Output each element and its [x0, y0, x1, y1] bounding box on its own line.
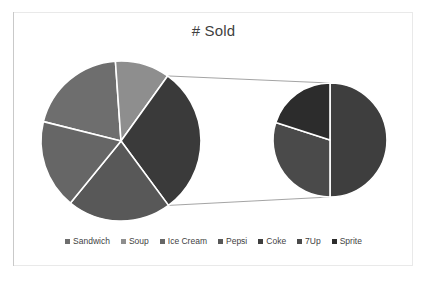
pie-connector-line [168, 197, 330, 205]
legend-item-label: Sandwich [73, 236, 110, 246]
legend-item-label: Soup [129, 236, 149, 246]
legend-item[interactable]: Ice Cream [160, 236, 207, 246]
secondary-pie [273, 83, 387, 197]
pie-of-pie-chart: # Sold SandwichSoupIce CreamPepsiCoke7Up… [0, 0, 427, 281]
legend-swatch-icon [218, 239, 223, 244]
legend-item[interactable]: 7Up [297, 236, 321, 246]
primary-pie [41, 61, 201, 221]
legend-item[interactable]: Sandwich [65, 236, 110, 246]
pie-connector-line [168, 76, 330, 83]
legend-swatch-icon [297, 239, 302, 244]
legend-swatch-icon [121, 239, 126, 244]
legend-item[interactable]: Coke [258, 236, 286, 246]
legend-item[interactable]: Sprite [332, 236, 362, 246]
chart-legend: SandwichSoupIce CreamPepsiCoke7UpSprite [0, 236, 427, 246]
legend-item-label: Ice Cream [168, 236, 207, 246]
legend-swatch-icon [65, 239, 70, 244]
legend-swatch-icon [332, 239, 337, 244]
legend-swatch-icon [258, 239, 263, 244]
legend-item[interactable]: Soup [121, 236, 149, 246]
legend-item-label: Pepsi [226, 236, 247, 246]
legend-swatch-icon [160, 239, 165, 244]
legend-item-label: Coke [266, 236, 286, 246]
legend-item[interactable]: Pepsi [218, 236, 247, 246]
secondary-pie-slice[interactable] [330, 83, 387, 197]
legend-item-label: Sprite [340, 236, 362, 246]
legend-item-label: 7Up [305, 236, 321, 246]
